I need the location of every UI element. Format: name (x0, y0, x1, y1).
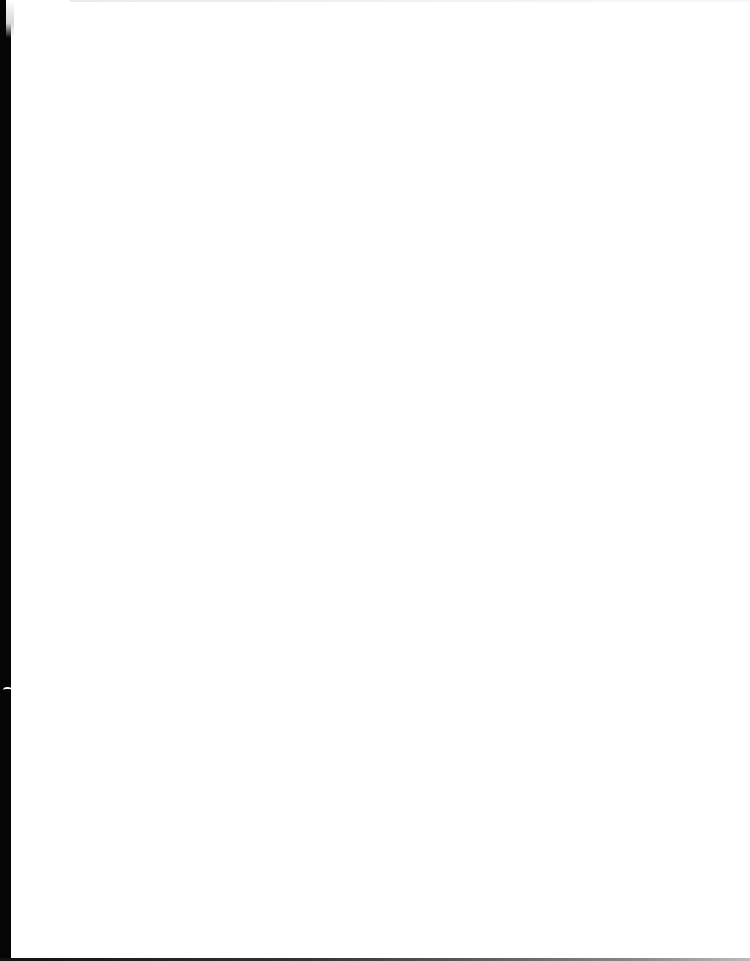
scanned-document (0, 0, 750, 961)
scanner-edge-left (0, 0, 11, 961)
scanner-edge-top (70, 0, 750, 2)
scanner-edge-artifact (3, 687, 12, 693)
blank-page (11, 2, 750, 958)
scanner-edge-fade (6, 0, 14, 38)
